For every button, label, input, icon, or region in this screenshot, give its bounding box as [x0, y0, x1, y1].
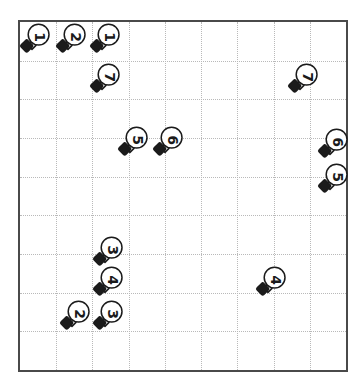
bulb-glass	[264, 267, 285, 288]
bulb-marker: 4	[254, 264, 288, 298]
light-bulb-icon	[91, 234, 125, 268]
bulb-glass	[326, 164, 347, 185]
light-bulb-icon	[286, 61, 320, 95]
bulb-glass	[296, 64, 317, 85]
bulb-glass	[68, 301, 89, 322]
light-bulb-icon	[18, 21, 52, 55]
light-bulb-icon	[54, 21, 88, 55]
bulb-glass	[126, 127, 147, 148]
light-bulb-icon	[316, 126, 350, 160]
light-bulb-icon	[91, 264, 125, 298]
figure-canvas: 12177566534423	[0, 0, 364, 390]
bulb-marker: 1	[88, 21, 122, 55]
plot-area: 12177566534423	[18, 20, 348, 372]
light-bulb-icon	[58, 298, 92, 332]
bulb-marker: 5	[316, 161, 350, 195]
bulb-marker: 3	[91, 234, 125, 268]
bulb-glass	[326, 129, 347, 150]
bulb-glass	[101, 237, 122, 258]
bulb-glass	[101, 301, 122, 322]
light-bulb-icon	[88, 61, 122, 95]
light-bulb-icon	[88, 21, 122, 55]
bulb-marker: 2	[54, 21, 88, 55]
light-bulb-icon	[254, 264, 288, 298]
light-bulb-icon	[316, 161, 350, 195]
bulb-marker: 1	[18, 21, 52, 55]
bulb-marker: 6	[316, 126, 350, 160]
bulb-marker: 3	[91, 298, 125, 332]
bulb-glass	[101, 267, 122, 288]
bulb-marker: 7	[286, 61, 320, 95]
bulb-glass	[28, 24, 49, 45]
bulb-glass	[98, 64, 119, 85]
bulb-glass	[161, 127, 182, 148]
bulb-marker: 7	[88, 61, 122, 95]
light-bulb-icon	[116, 124, 150, 158]
bulb-marker: 6	[151, 124, 185, 158]
bulb-marker: 2	[58, 298, 92, 332]
bulb-markers: 12177566534423	[20, 22, 346, 370]
bulb-glass	[64, 24, 85, 45]
bulb-marker: 4	[91, 264, 125, 298]
light-bulb-icon	[151, 124, 185, 158]
bulb-marker: 5	[116, 124, 150, 158]
light-bulb-icon	[91, 298, 125, 332]
bulb-glass	[98, 24, 119, 45]
